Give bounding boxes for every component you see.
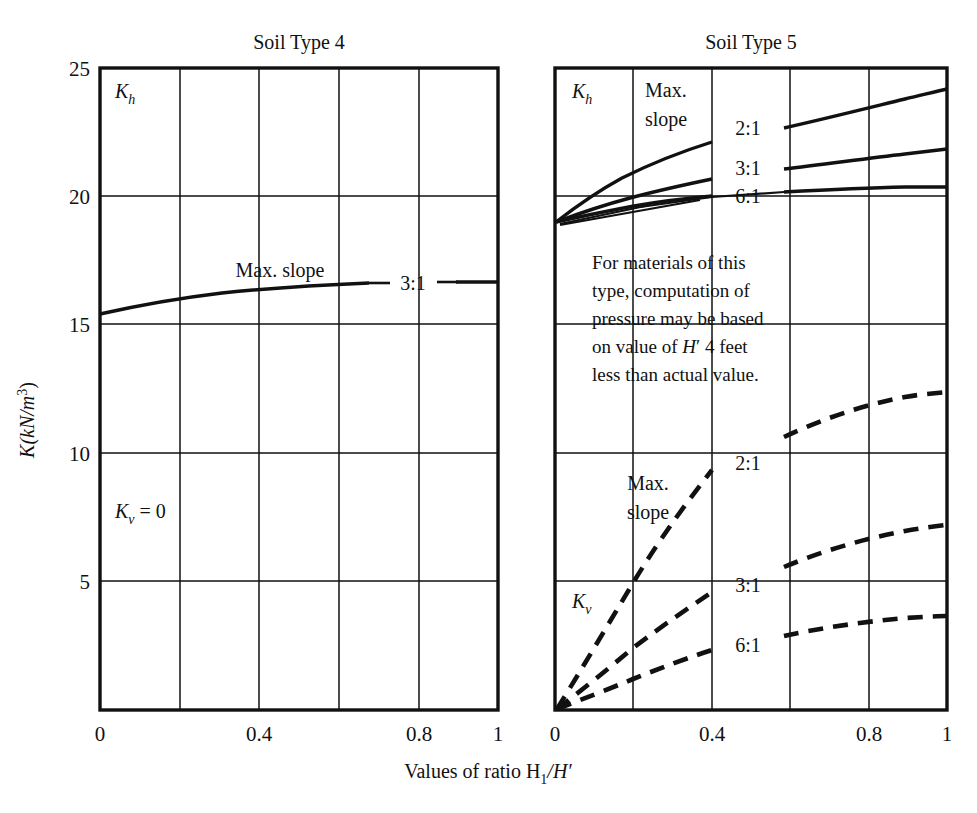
x-tick-label-right-04: 0.4 xyxy=(699,722,726,746)
max-slope-label-right-lower-line1: Max. xyxy=(627,472,669,494)
max-slope-label-right-upper-line1: Max. xyxy=(645,79,687,101)
curve-label-6to1-right-lower: 6:1 xyxy=(735,634,761,656)
y-tick-label-20: 20 xyxy=(69,185,90,209)
gridlines-horizontal-left xyxy=(100,196,498,581)
annotation-block-right: For materials of this type, computation … xyxy=(592,252,764,385)
y-axis-title-text: K(kN/m xyxy=(16,396,39,459)
kv-label-right: Kv xyxy=(571,590,592,617)
max-slope-label-right-lower-line2: slope xyxy=(627,501,669,524)
panel-soil-type-4: Soil Type 4 xyxy=(95,31,504,746)
gridlines-vertical-left xyxy=(180,68,419,710)
y-tick-label-5: 5 xyxy=(80,570,91,594)
annotation-line-3: pressure may be based xyxy=(592,308,764,329)
curve-label-2to1-right-lower: 2:1 xyxy=(735,452,761,474)
curve-label-3to1-left: 3:1 xyxy=(400,272,426,294)
curve-label-3to1-right-upper: 3:1 xyxy=(735,157,761,179)
annotation-line-5: less than actual value. xyxy=(592,364,759,385)
kh-label-left: Kh xyxy=(114,80,135,107)
y-tick-labels: 25 20 15 10 5 xyxy=(69,57,90,594)
x-axis-title: Values of ratio H1/H′ xyxy=(404,760,572,787)
plot-frame-left xyxy=(100,68,498,710)
curve-label-3to1-right-lower: 3:1 xyxy=(735,574,761,596)
max-slope-label-right-upper-line2: slope xyxy=(645,108,687,131)
y-axis-title-tail: ) xyxy=(16,382,39,389)
curve-3to1-right-lower-b xyxy=(784,525,946,567)
y-axis-title-exponent: 3 xyxy=(15,389,30,396)
panel-title-soil-type-4: Soil Type 4 xyxy=(253,31,345,54)
curve-6to1-right-lower-a xyxy=(557,650,712,709)
svg-text:K(kN/m3): K(kN/m3) xyxy=(15,382,39,459)
curve-3to1-left-segment-a xyxy=(100,283,369,314)
chart-svg: K(kN/m3) 25 20 15 10 5 Soil Type 4 xyxy=(0,0,977,813)
x-tick-label-left-1: 1 xyxy=(493,722,504,746)
figure-page: K(kN/m3) 25 20 15 10 5 Soil Type 4 xyxy=(0,0,977,813)
x-tick-label-right-0: 0 xyxy=(550,722,561,746)
curve-2to1-right-upper-a xyxy=(556,142,712,222)
curve-2to1-right-upper-b xyxy=(784,89,947,128)
curve-6to1-right-lower-b xyxy=(784,616,946,636)
x-tick-label-left-08: 0.8 xyxy=(406,722,432,746)
y-tick-label-10: 10 xyxy=(69,442,90,466)
x-axis-title-subscript: 1 xyxy=(540,772,547,787)
curve-3to1-right-upper-b xyxy=(784,149,947,169)
x-tick-labels-left: 0 0.4 0.8 1 xyxy=(95,722,504,746)
annotation-line-4: on value of H′ 4 feet xyxy=(592,336,748,357)
max-slope-label-left: Max. slope xyxy=(236,259,325,282)
curve-label-2to1-right-upper: 2:1 xyxy=(735,117,761,139)
y-tick-label-15: 15 xyxy=(69,313,90,337)
x-tick-label-left-04: 0.4 xyxy=(246,722,273,746)
soil-k-chart-figure: K(kN/m3) 25 20 15 10 5 Soil Type 4 xyxy=(0,0,977,813)
y-tick-label-25: 25 xyxy=(69,57,90,81)
curve-2to1-right-lower-b xyxy=(784,392,946,437)
svg-text:Values of ratio H1/H′: Values of ratio H1/H′ xyxy=(404,760,572,787)
kv-label-left: Kv = 0 xyxy=(114,500,166,527)
panel-soil-type-5: Soil Type 5 xyxy=(550,31,953,746)
annotation-line-1: For materials of this xyxy=(592,252,746,273)
kh-label-right: Kh xyxy=(571,80,592,107)
annotation-line-2: type, computation of xyxy=(592,280,750,301)
x-tick-label-right-08: 0.8 xyxy=(856,722,882,746)
curve-6to1-right-upper-b xyxy=(784,187,947,192)
y-axis-title: K(kN/m3) xyxy=(15,382,39,459)
x-tick-label-right-1: 1 xyxy=(942,722,953,746)
x-axis-title-text: Values of ratio H xyxy=(404,760,540,782)
panel-title-soil-type-5: Soil Type 5 xyxy=(705,31,797,54)
x-tick-labels-right: 0 0.4 0.8 1 xyxy=(550,722,953,746)
x-axis-title-tail: /H′ xyxy=(546,760,572,782)
x-tick-label-left-0: 0 xyxy=(95,722,106,746)
